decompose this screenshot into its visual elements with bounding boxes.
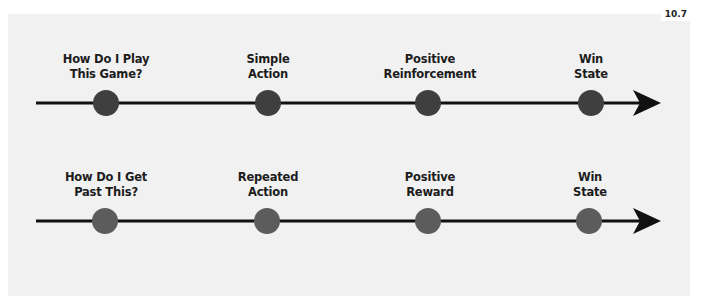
label-line: Repeated bbox=[198, 170, 338, 185]
label-line: Past This? bbox=[36, 185, 176, 200]
node-label-win-state: Win State bbox=[521, 52, 661, 82]
node-label-positive-reward: Positive Reward bbox=[360, 170, 500, 200]
label-line: State bbox=[521, 67, 661, 82]
timeline-node bbox=[576, 208, 602, 234]
label-line: Win bbox=[521, 52, 661, 67]
label-line: Positive bbox=[360, 170, 500, 185]
label-line: Positive bbox=[360, 52, 500, 67]
label-line: Reinforcement bbox=[360, 67, 500, 82]
label-line: Action bbox=[198, 67, 338, 82]
timeline-node bbox=[93, 90, 119, 116]
timeline-node bbox=[415, 208, 441, 234]
node-label-how-do-i-get-past: How Do I Get Past This? bbox=[36, 170, 176, 200]
figure-number: 10.7 bbox=[661, 7, 690, 21]
node-label-repeated-action: Repeated Action bbox=[198, 170, 338, 200]
label-line: Win bbox=[520, 170, 660, 185]
label-line: This Game? bbox=[36, 67, 176, 82]
label-line: How Do I Play bbox=[36, 52, 176, 67]
timeline-bottom: How Do I Get Past This? Repeated Action … bbox=[0, 166, 701, 276]
node-label-simple-action: Simple Action bbox=[198, 52, 338, 82]
timeline-node bbox=[578, 90, 604, 116]
node-label-win-state: Win State bbox=[520, 170, 660, 200]
label-line: Action bbox=[198, 185, 338, 200]
timeline-node bbox=[255, 90, 281, 116]
timeline-top: How Do I Play This Game? Simple Action P… bbox=[0, 48, 701, 158]
label-line: Reward bbox=[360, 185, 500, 200]
label-line: How Do I Get bbox=[36, 170, 176, 185]
node-label-how-do-i-play: How Do I Play This Game? bbox=[36, 52, 176, 82]
timeline-node bbox=[415, 90, 441, 116]
timeline-node bbox=[92, 208, 118, 234]
timeline-node bbox=[254, 208, 280, 234]
node-label-positive-reinforcement: Positive Reinforcement bbox=[360, 52, 500, 82]
label-line: Simple bbox=[198, 52, 338, 67]
label-line: State bbox=[520, 185, 660, 200]
